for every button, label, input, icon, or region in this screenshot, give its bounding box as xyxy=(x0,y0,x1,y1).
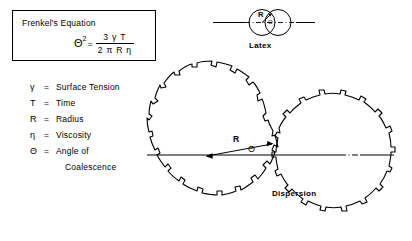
legend-symbol: γ xyxy=(30,82,44,92)
dispersion-angle-label: Θ xyxy=(248,145,255,154)
dispersion-radius-arrowhead-left xyxy=(206,153,213,159)
legend-symbol: T xyxy=(30,98,44,108)
equation-equals-sign: = xyxy=(87,39,92,49)
legend-equals: = xyxy=(44,146,56,156)
legend-definition: Viscosity xyxy=(56,130,91,140)
equation-lhs-exponent: 2 xyxy=(83,35,87,42)
legend-item: R = Radius xyxy=(30,114,120,130)
equation-lhs-symbol: Θ xyxy=(74,37,83,49)
equation-fraction: 3 γ T 2 π R η xyxy=(96,32,134,55)
legend-definition: Surface Tension xyxy=(56,82,120,92)
latex-radius-label: R xyxy=(258,11,263,19)
latex-angle-label: Θ xyxy=(268,19,273,25)
legend-item: Θ = Angle of xyxy=(30,146,120,162)
legend-symbol: Θ xyxy=(30,146,44,156)
dispersion-radius-arrow xyxy=(207,144,272,156)
legend-definition-continued: Coalescence xyxy=(65,162,120,176)
dispersion-radius-arrowhead-right xyxy=(267,141,274,146)
dispersion-particle-left xyxy=(147,61,278,195)
equation-expression: Θ2 = 3 γ T 2 π R η xyxy=(74,31,134,54)
legend-definition: Radius xyxy=(56,114,84,124)
legend-definition: Time xyxy=(56,98,75,108)
symbol-legend: γ = Surface Tension T = Time R = Radius … xyxy=(30,82,120,176)
legend-item: η = Viscosity xyxy=(30,130,120,146)
frenkel-equation-figure: Frenkel's Equation Θ2 = 3 γ T 2 π R η γ … xyxy=(0,0,412,241)
equation-numerator: 3 γ T xyxy=(101,32,128,43)
equation-denominator: 2 π R η xyxy=(96,44,134,55)
latex-diagram-group xyxy=(213,10,315,36)
dispersion-radius-label: R xyxy=(233,135,239,144)
legend-item: T = Time xyxy=(30,98,120,114)
legend-symbol: R xyxy=(30,114,44,124)
legend-definition: Angle of xyxy=(56,146,89,156)
legend-symbol: η xyxy=(30,130,44,140)
legend-equals: = xyxy=(44,82,56,92)
legend-item: γ = Surface Tension xyxy=(30,82,120,98)
legend-equals: = xyxy=(44,114,56,124)
dispersion-caption: Dispersion xyxy=(272,190,316,198)
legend-equals: = xyxy=(44,130,56,140)
dispersion-diagram-group xyxy=(147,61,395,211)
latex-caption: Latex xyxy=(249,42,271,50)
legend-equals: = xyxy=(44,98,56,108)
equation-title: Frenkel's Equation xyxy=(22,19,96,28)
